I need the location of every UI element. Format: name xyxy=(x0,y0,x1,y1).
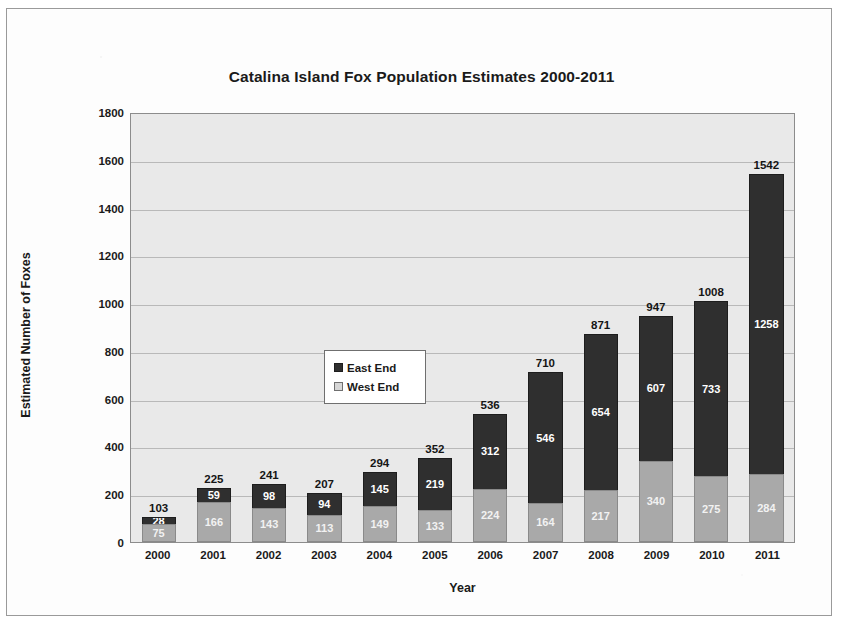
bar-stack-2010[interactable]: 1008733275 xyxy=(694,301,728,542)
bar-total-label-2011: 1542 xyxy=(754,159,780,171)
bar-total-label-2008: 871 xyxy=(591,319,610,331)
bar-segment-west-end-2000[interactable]: 75 xyxy=(142,524,176,542)
bar-stack-2007[interactable]: 710546164 xyxy=(528,372,562,542)
bar-segment-west-end-2005[interactable]: 133 xyxy=(418,510,452,542)
legend: East End West End xyxy=(324,350,426,404)
bar-series-group: 1032875225591662419814320794113294145149… xyxy=(131,114,794,542)
bar-total-label-2005: 352 xyxy=(425,443,444,455)
bar-value-east-end-2005: 219 xyxy=(426,479,444,490)
legend-label-west-end: West End xyxy=(347,381,399,393)
chart-page: Catalina Island Fox Population Estimates… xyxy=(0,0,843,632)
bar-segment-east-end-2004[interactable]: 145 xyxy=(363,472,397,507)
bar-segment-east-end-2009[interactable]: 607 xyxy=(639,316,673,461)
bar-group-2004: 294145149 xyxy=(352,114,407,542)
bar-value-west-end-2008: 217 xyxy=(591,511,609,522)
bar-stack-2009[interactable]: 947607340 xyxy=(639,316,673,542)
bar-total-label-2002: 241 xyxy=(260,469,279,481)
bar-segment-east-end-2007[interactable]: 546 xyxy=(528,372,562,502)
bar-group-2001: 22559166 xyxy=(186,114,241,542)
bar-segment-east-end-2008[interactable]: 654 xyxy=(584,334,618,490)
bar-segment-east-end-2001[interactable]: 59 xyxy=(197,488,231,502)
bar-group-2010: 1008733275 xyxy=(684,114,739,542)
bar-value-west-end-2005: 133 xyxy=(426,521,444,532)
bar-segment-east-end-2000[interactable]: 28 xyxy=(142,517,176,524)
bar-stack-2001[interactable]: 22559166 xyxy=(197,488,231,542)
bar-value-west-end-2006: 224 xyxy=(481,510,499,521)
bar-segment-east-end-2010[interactable]: 733 xyxy=(694,301,728,476)
bar-total-label-2010: 1008 xyxy=(698,286,724,298)
bar-total-label-2000: 103 xyxy=(149,502,168,514)
x-axis-tick-2009: 2009 xyxy=(629,549,684,569)
bar-group-2003: 20794113 xyxy=(297,114,352,542)
bar-value-west-end-2009: 340 xyxy=(647,496,665,507)
bar-value-east-end-2000: 28 xyxy=(153,517,165,524)
bar-segment-west-end-2006[interactable]: 224 xyxy=(473,489,507,543)
bar-group-2006: 536312224 xyxy=(463,114,518,542)
y-axis-tick-400: 400 xyxy=(62,441,124,453)
x-axis-tick-2000: 2000 xyxy=(130,549,185,569)
bar-segment-west-end-2011[interactable]: 284 xyxy=(749,474,783,542)
bar-stack-2006[interactable]: 536312224 xyxy=(473,414,507,542)
y-axis-tick-labels: 020040060080010001200140016001800 xyxy=(62,106,124,550)
bar-stack-2008[interactable]: 871654217 xyxy=(584,334,618,542)
bar-segment-west-end-2009[interactable]: 340 xyxy=(639,461,673,542)
x-axis-tick-2003: 2003 xyxy=(296,549,351,569)
bar-value-east-end-2008: 654 xyxy=(591,407,609,418)
bar-segment-west-end-2010[interactable]: 275 xyxy=(694,476,728,542)
x-axis-tick-2010: 2010 xyxy=(684,549,739,569)
bar-group-2009: 947607340 xyxy=(628,114,683,542)
bar-segment-west-end-2004[interactable]: 149 xyxy=(363,506,397,542)
bar-group-2008: 871654217 xyxy=(573,114,628,542)
bar-segment-west-end-2002[interactable]: 143 xyxy=(252,508,286,542)
bar-stack-2011[interactable]: 15421258284 xyxy=(749,174,783,542)
bar-value-west-end-2003: 113 xyxy=(316,523,334,534)
bar-value-east-end-2003: 94 xyxy=(318,499,330,510)
x-axis-tick-labels: 2000200120022003200420052006200720082009… xyxy=(130,549,795,569)
y-axis-tick-200: 200 xyxy=(62,489,124,501)
bar-stack-2002[interactable]: 24198143 xyxy=(252,484,286,542)
bar-segment-east-end-2002[interactable]: 98 xyxy=(252,484,286,507)
bar-value-west-end-2011: 284 xyxy=(757,503,775,514)
bar-stack-2004[interactable]: 294145149 xyxy=(363,472,397,542)
x-axis-title: Year xyxy=(130,581,795,595)
bar-value-east-end-2007: 546 xyxy=(536,433,554,444)
y-axis-tick-800: 800 xyxy=(62,346,124,358)
legend-label-east-end: East End xyxy=(347,362,396,374)
x-axis-tick-2006: 2006 xyxy=(463,549,518,569)
legend-item-east-end: East End xyxy=(334,358,416,377)
bar-segment-east-end-2006[interactable]: 312 xyxy=(473,414,507,489)
bar-stack-2005[interactable]: 352219133 xyxy=(418,458,452,542)
bar-stack-2003[interactable]: 20794113 xyxy=(307,493,341,542)
y-axis-tick-0: 0 xyxy=(62,537,124,549)
x-axis-tick-2001: 2001 xyxy=(185,549,240,569)
x-axis-tick-2007: 2007 xyxy=(518,549,573,569)
bar-segment-west-end-2003[interactable]: 113 xyxy=(307,515,341,542)
bar-group-2011: 15421258284 xyxy=(739,114,794,542)
bar-segment-west-end-2007[interactable]: 164 xyxy=(528,503,562,542)
x-axis-tick-2008: 2008 xyxy=(573,549,628,569)
chart-title: Catalina Island Fox Population Estimates… xyxy=(0,68,843,86)
bar-value-west-end-2004: 149 xyxy=(370,519,388,530)
y-axis-tick-1000: 1000 xyxy=(62,298,124,310)
legend-item-west-end: West End xyxy=(334,377,416,396)
x-axis-tick-2011: 2011 xyxy=(740,549,795,569)
bar-group-2007: 710546164 xyxy=(518,114,573,542)
bar-segment-west-end-2001[interactable]: 166 xyxy=(197,502,231,542)
bar-value-west-end-2010: 275 xyxy=(702,504,720,515)
bar-segment-west-end-2008[interactable]: 217 xyxy=(584,490,618,542)
bar-value-east-end-2009: 607 xyxy=(647,383,665,394)
bar-value-west-end-2002: 143 xyxy=(260,519,278,530)
bar-segment-east-end-2011[interactable]: 1258 xyxy=(749,174,783,475)
y-axis-tick-1600: 1600 xyxy=(62,155,124,167)
bar-total-label-2004: 294 xyxy=(370,457,389,469)
bar-value-west-end-2000: 75 xyxy=(153,528,165,539)
bar-group-2000: 1032875 xyxy=(131,114,186,542)
bar-segment-east-end-2005[interactable]: 219 xyxy=(418,458,452,510)
x-axis-tick-2005: 2005 xyxy=(407,549,462,569)
bar-value-east-end-2010: 733 xyxy=(702,384,720,395)
bar-stack-2000[interactable]: 1032875 xyxy=(142,517,176,542)
bar-value-west-end-2007: 164 xyxy=(536,517,554,528)
bar-group-2005: 352219133 xyxy=(407,114,462,542)
bar-segment-east-end-2003[interactable]: 94 xyxy=(307,493,341,515)
y-axis-title: Estimated Number of Foxes xyxy=(19,205,33,465)
